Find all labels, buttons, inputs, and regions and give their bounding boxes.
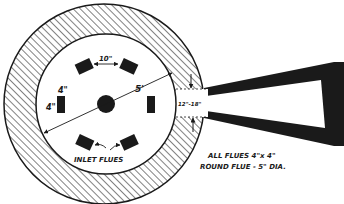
chamber-diameter-label: 5' (135, 84, 144, 94)
exit-width-label: 12"-18" (178, 101, 201, 107)
note-line-1: ALL FLUES 4"x 4" (207, 152, 276, 160)
inlet-flue-left (57, 96, 65, 113)
flue-height-label: 4" (45, 103, 56, 112)
inlet-flue-right (147, 96, 155, 113)
inlet-flues-label: INLET FLUES (74, 156, 123, 164)
exit-duct (204, 62, 344, 146)
note-line-2: ROUND FLUE - 5" DIA. (200, 163, 286, 171)
flue-width-label: 4" (57, 86, 68, 95)
flue-spacing-label: 10" (99, 55, 112, 63)
flue-diagram: 10" 4" 4" 5' 12"-18" INLET FLUES ALL FLU… (0, 0, 344, 204)
